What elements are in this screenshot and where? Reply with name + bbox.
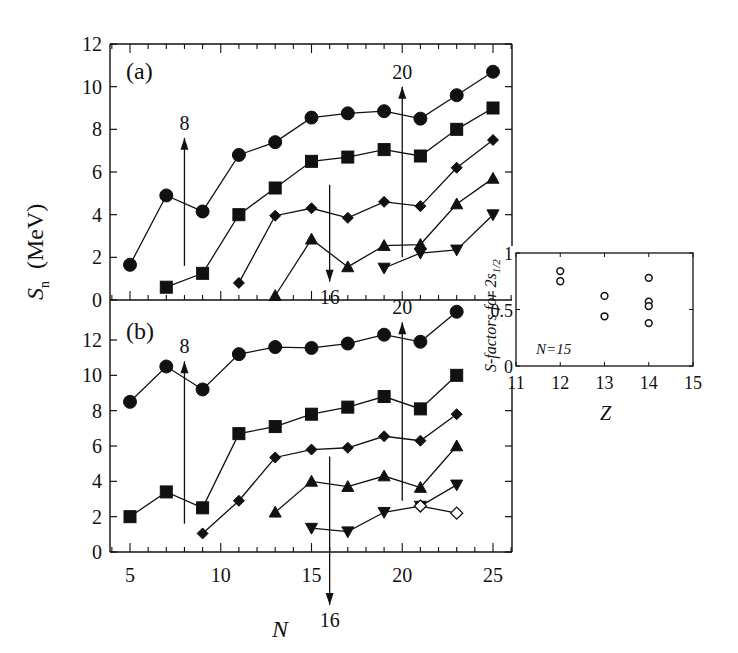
- inset-y-tick-label: 0: [504, 357, 513, 377]
- arrow-head-icon: [398, 87, 406, 99]
- circle-marker: [232, 348, 245, 361]
- circle-marker: [124, 258, 137, 271]
- circle-marker: [341, 107, 354, 120]
- square-marker: [269, 421, 281, 433]
- magic-number-label: 8: [179, 335, 189, 357]
- x-tick-label: 25: [483, 564, 503, 586]
- square-marker: [306, 155, 318, 167]
- inset-x-axis-label: Z: [600, 402, 611, 425]
- x-tick-label: 15: [302, 564, 322, 586]
- y-axis-label: Sn (MeV): [22, 204, 53, 300]
- x-axis-symbol: N: [272, 616, 288, 642]
- circle-marker: [232, 148, 245, 161]
- triangle-down-marker: [451, 480, 463, 491]
- triangle-up-marker: [378, 470, 390, 481]
- inset-annotation-text: N=15: [536, 341, 571, 357]
- open-circle-marker: [645, 303, 652, 310]
- y-axis-unit: (MeV): [22, 204, 48, 269]
- y-tick-label: 4: [92, 470, 102, 492]
- square-marker: [414, 403, 426, 415]
- triangle-down-marker: [378, 263, 390, 274]
- triangle-down-marker: [342, 527, 354, 538]
- open-diamond-marker: [451, 507, 463, 519]
- circle-marker: [305, 341, 318, 354]
- diamond-marker: [488, 135, 499, 146]
- square-marker: [233, 209, 245, 221]
- inset-s-factors: 111213141500.51: [491, 244, 703, 393]
- y-tick-label: 10: [82, 364, 102, 386]
- diamond-marker: [342, 212, 353, 223]
- diamond-marker: [306, 203, 317, 214]
- triangle-up-marker: [269, 290, 281, 301]
- inset-y-tick-label: 1: [504, 244, 513, 264]
- inset-x-tick-label: 14: [640, 373, 658, 393]
- square-marker: [487, 102, 499, 114]
- square-marker: [378, 144, 390, 156]
- square-marker: [197, 502, 209, 514]
- diamond-marker: [379, 431, 390, 442]
- square-marker: [269, 182, 281, 194]
- triangle-up-marker: [451, 440, 463, 451]
- y-tick-label: 12: [82, 33, 102, 55]
- open-circle-marker: [557, 278, 564, 285]
- circle-marker: [124, 395, 137, 408]
- y-tick-label: 2: [92, 246, 102, 268]
- arrow-head-icon: [398, 322, 406, 334]
- diamond-marker: [451, 409, 462, 420]
- x-axis-label: N: [272, 616, 288, 643]
- diamond-marker: [270, 210, 281, 221]
- open-circle-marker: [601, 313, 608, 320]
- x-tick-label: 20: [392, 564, 412, 586]
- inset-x-tick-label: 12: [551, 373, 569, 393]
- y-tick-label: 2: [92, 506, 102, 528]
- arrow-head-icon: [180, 138, 188, 150]
- square-marker: [306, 408, 318, 420]
- y-axis-symbol: S: [22, 288, 48, 300]
- triangle-up-marker: [306, 475, 318, 486]
- magic-number-label: 8: [179, 112, 189, 134]
- circle-marker: [487, 65, 500, 78]
- magic-number-label: 20: [392, 61, 412, 83]
- square-marker: [414, 150, 426, 162]
- y-tick-label: 6: [92, 435, 102, 457]
- square-marker: [342, 151, 354, 163]
- y-axis-subscript: n: [37, 281, 52, 288]
- y-tick-label: 6: [92, 161, 102, 183]
- open-circle-marker: [601, 293, 608, 300]
- circle-marker: [450, 305, 463, 318]
- magic-number-label: 16: [320, 609, 340, 631]
- triangles-up-line: [275, 446, 457, 512]
- circle-marker: [269, 136, 282, 149]
- square-marker: [124, 511, 136, 523]
- square-marker: [342, 401, 354, 413]
- arrow-head-icon: [326, 593, 334, 605]
- inset-annotation: N=15: [536, 341, 571, 358]
- inset-y-axis-text: S-factors for 2s: [482, 273, 499, 372]
- y-tick-label: 0: [92, 541, 102, 563]
- y-tick-label: 8: [92, 400, 102, 422]
- inset-y-axis-label: S-factors for 2s1/2: [482, 259, 502, 372]
- open-circle-marker: [645, 274, 652, 281]
- triangle-up-marker: [451, 198, 463, 209]
- square-marker: [233, 428, 245, 440]
- triangles-down-line: [384, 215, 493, 268]
- panel-b-label: (b): [126, 318, 154, 345]
- circle-marker: [414, 335, 427, 348]
- triangle-up-marker: [342, 261, 354, 272]
- circle-marker: [305, 111, 318, 124]
- circle-marker: [196, 383, 209, 396]
- circle-marker: [160, 189, 173, 202]
- triangle-up-marker: [306, 233, 318, 244]
- arrow-head-icon: [326, 270, 334, 282]
- open-circle-marker: [645, 320, 652, 327]
- y-tick-label: 4: [92, 204, 102, 226]
- y-tick-label: 12: [82, 329, 102, 351]
- inset-x-tick-label: 15: [684, 373, 702, 393]
- magic-number-label: 16: [320, 286, 340, 308]
- x-tick-label: 10: [211, 564, 231, 586]
- inset-x-axis-symbol: Z: [600, 402, 611, 424]
- y-tick-label: 8: [92, 118, 102, 140]
- panel-b: 02468101282016510152025: [82, 296, 512, 631]
- square-marker: [451, 123, 463, 135]
- arrow-head-icon: [180, 361, 188, 373]
